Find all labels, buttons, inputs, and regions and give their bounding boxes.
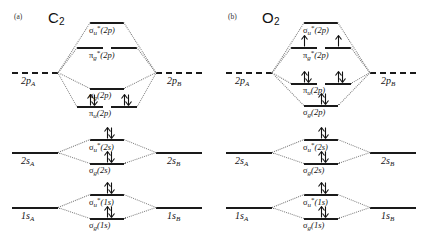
panel-tag: (a) xyxy=(14,12,22,21)
atomic-level-2p_A xyxy=(226,72,272,74)
mo-label-pi-u-2p: πu(2p) xyxy=(89,108,111,120)
tie-left-sigma-u-star-2s xyxy=(58,139,90,153)
mo-label-pi-g-star-2p: πg*(2p) xyxy=(89,49,114,62)
atomic-level-2p_A xyxy=(12,72,58,74)
mo-sigma-g-2s-electron-2 xyxy=(321,151,330,163)
mo-sigma-u-star-1s-electron-2 xyxy=(321,182,330,194)
mo-label-sigma-g-2s: σg(2s) xyxy=(303,165,324,177)
mo-sigma-g-2p-electron-2 xyxy=(321,93,330,105)
mo-pi-g-star-2p-1-electron-1 xyxy=(300,35,309,47)
tie-right-sigma-u-star-2s xyxy=(338,139,370,153)
molecule-title: O2 xyxy=(262,9,280,27)
atomic-level-1s_A xyxy=(12,207,58,209)
mo-label-sigma-u-star-2p: σu*(2p) xyxy=(89,24,115,37)
atomic-level-2s_B xyxy=(370,152,416,154)
panel-o2: (b)O22pA2sA1sA2pB2sB1sBσu*(2p)πg*(2p)πu(… xyxy=(214,0,428,246)
tie-right-pi-g-star-2p xyxy=(136,47,156,73)
tie-right-sigma-u-star-2s xyxy=(124,139,156,153)
tie-left-sigma-g-1s xyxy=(58,207,90,219)
atomic-label-2p_A: 2pA xyxy=(21,75,35,88)
molecule-title: C2 xyxy=(48,9,65,27)
atomic-label-1s_A: 1sA xyxy=(21,210,34,223)
tie-right-sigma-u-star-1s xyxy=(124,194,156,208)
tie-left-sigma-u-star-2s xyxy=(272,139,304,153)
tie-right-pi-g-star-2p xyxy=(350,47,370,73)
atomic-label-1s_A: 1sA xyxy=(235,210,248,223)
tie-left-sigma-g-2s xyxy=(58,152,90,164)
mo-pi-u-2p-1-electron-2 xyxy=(304,71,313,83)
atomic-label-1s_B: 1sB xyxy=(381,210,394,223)
tie-left-sigma-u-star-1s xyxy=(272,194,304,208)
atomic-label-1s_B: 1sB xyxy=(167,210,180,223)
panel-c2: (a)C22pA2sA1sA2pB2sB1sBσu*(2p)πg*(2p)σg(… xyxy=(0,0,214,246)
mo-label-sigma-g-2s: σg(2s) xyxy=(89,165,110,177)
atomic-level-1s_B xyxy=(156,207,202,209)
mo-pi-u-2p-1-electron-2 xyxy=(90,94,99,106)
mo-label-sigma-g-1s: σg(1s) xyxy=(89,220,110,232)
tie-right-sigma-u-star-1s xyxy=(338,194,370,208)
mo-label-sigma-g-1s: σg(1s) xyxy=(303,220,324,232)
atomic-label-2s_A: 2sA xyxy=(235,155,248,168)
atomic-level-2p_B xyxy=(156,72,202,74)
atomic-level-2s_B xyxy=(156,152,202,154)
tie-left-pi-g-star-2p xyxy=(272,47,292,73)
tie-left-sigma-u-star-1s xyxy=(58,194,90,208)
atomic-level-2s_A xyxy=(226,152,272,154)
atomic-level-1s_A xyxy=(226,207,272,209)
mo-sigma-u-star-1s-electron-2 xyxy=(107,182,116,194)
tie-left-sigma-g-1s xyxy=(272,207,304,219)
mo-pi-u-2p-2-electron-2 xyxy=(124,94,133,106)
mo-level-pi-u-2p-2 xyxy=(325,83,351,85)
mo-label-pi-g-star-2p: πg*(2p) xyxy=(303,49,328,62)
mo-sigma-g-1s-electron-2 xyxy=(107,206,116,218)
mo-pi-u-2p-2-electron-2 xyxy=(338,71,347,83)
atomic-level-1s_B xyxy=(370,207,416,209)
mo-sigma-u-star-2s-electron-2 xyxy=(321,127,330,139)
mo-sigma-g-2s-electron-2 xyxy=(107,151,116,163)
panel-tag: (b) xyxy=(228,12,237,21)
atomic-label-2p_B: 2pB xyxy=(381,75,395,88)
mo-sigma-g-1s-electron-2 xyxy=(321,206,330,218)
mo-pi-g-star-2p-2-electron-1 xyxy=(334,35,343,47)
atomic-label-2p_B: 2pB xyxy=(167,75,181,88)
tie-left-sigma-g-2s xyxy=(272,152,304,164)
tie-right-sigma-g-1s xyxy=(338,207,370,219)
tie-left-pi-g-star-2p xyxy=(58,47,78,73)
atomic-label-2s_B: 2sB xyxy=(381,155,394,168)
mo-level-pi-g-star-2p-2 xyxy=(325,47,351,49)
mo-sigma-u-star-2s-electron-2 xyxy=(107,127,116,139)
atomic-level-2p_B xyxy=(370,72,416,74)
tie-right-sigma-g-2s xyxy=(338,152,370,164)
mo-level-pi-g-star-2p-2 xyxy=(111,47,137,49)
mo-level-pi-u-2p-2 xyxy=(111,106,137,108)
tie-right-sigma-g-2s xyxy=(124,152,156,164)
atomic-label-2s_A: 2sA xyxy=(21,155,34,168)
atomic-level-2s_A xyxy=(12,152,58,154)
tie-right-sigma-g-1s xyxy=(124,207,156,219)
atomic-label-2p_A: 2pA xyxy=(235,75,249,88)
atomic-label-2s_B: 2sB xyxy=(167,155,180,168)
mo-label-sigma-g-2p: σg(2p) xyxy=(303,107,325,119)
